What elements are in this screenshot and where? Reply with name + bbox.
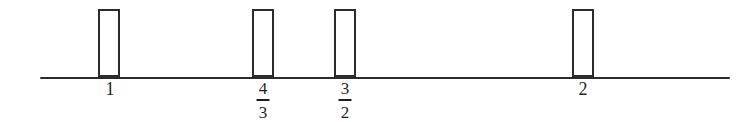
fraction-denominator: 3 xyxy=(257,103,270,121)
number-line-figure: 143322 xyxy=(0,0,755,122)
tick-label-text: 2 xyxy=(579,79,588,99)
fraction-bar-icon xyxy=(257,99,270,101)
fraction-bar-icon xyxy=(339,99,352,101)
impulse-bar-mark-2 xyxy=(572,9,594,77)
fraction-denominator: 2 xyxy=(339,103,352,121)
impulse-bar-mark-4-3 xyxy=(252,9,274,77)
impulse-bar-mark-3-2 xyxy=(334,9,356,77)
tick-label-mark-3-2: 32 xyxy=(339,80,352,121)
fraction-mark-4-3: 43 xyxy=(257,80,270,121)
tick-label-mark-4-3: 43 xyxy=(257,80,270,121)
tick-label-mark-2: 2 xyxy=(579,80,588,98)
fraction-numerator: 3 xyxy=(339,80,352,98)
impulse-bar-mark-1 xyxy=(98,9,120,77)
number-line-axis xyxy=(40,77,730,79)
fraction-numerator: 4 xyxy=(257,80,270,98)
tick-label-text: 1 xyxy=(106,79,115,99)
tick-label-mark-1: 1 xyxy=(106,80,115,98)
fraction-mark-3-2: 32 xyxy=(339,80,352,121)
